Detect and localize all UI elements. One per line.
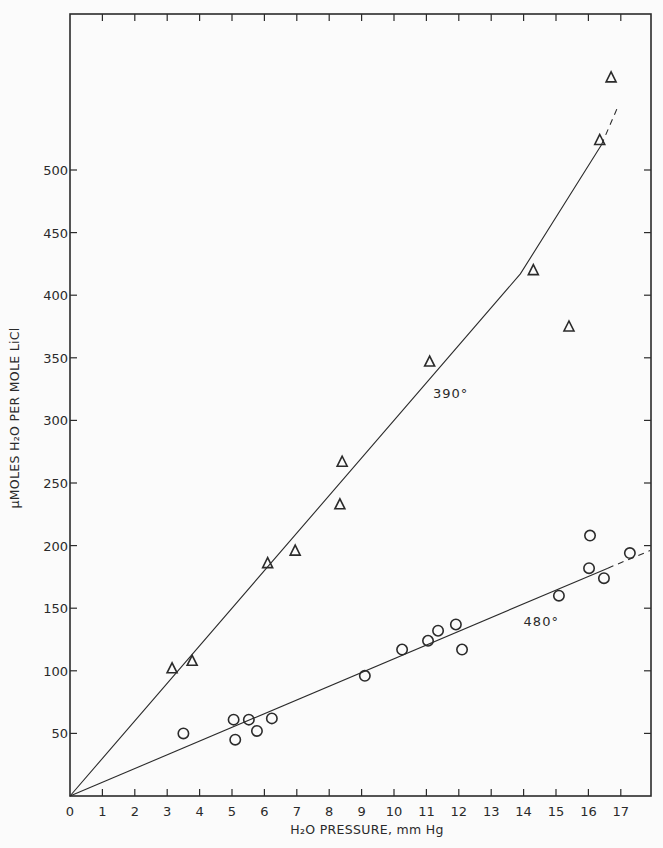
triangle-marker (425, 356, 435, 366)
y-tick-label: 350 (43, 351, 68, 366)
y-tick-label: 150 (43, 601, 68, 616)
x-tick-label: 13 (483, 804, 500, 819)
y-axis: 50100150200250300350400450500 (43, 163, 651, 741)
x-tick-label: 17 (613, 804, 630, 819)
x-tick-label: 0 (66, 804, 74, 819)
triangle-marker (337, 456, 347, 466)
triangle-marker (290, 545, 300, 555)
data-points (167, 72, 635, 745)
x-tick-label: 2 (131, 804, 139, 819)
circle-marker (244, 714, 254, 724)
circle-marker (230, 734, 240, 744)
circle-marker (554, 590, 564, 600)
y-axis-title: μMOLES H₂O PER MOLE LiCl (7, 328, 22, 509)
circle-marker (252, 726, 262, 736)
triangle-marker (167, 663, 177, 673)
fit-line-extrapolated (601, 107, 617, 145)
y-tick-label: 400 (43, 288, 68, 303)
circle-marker (360, 671, 370, 681)
circle-marker (433, 626, 443, 636)
x-tick-label: 8 (325, 804, 333, 819)
fit-line (70, 568, 608, 796)
fit-lines (70, 107, 650, 796)
y-tick-label: 100 (43, 664, 68, 679)
triangle-marker (528, 265, 538, 275)
x-tick-label: 6 (260, 804, 268, 819)
x-tick-label: 7 (293, 804, 301, 819)
circle-marker (397, 644, 407, 654)
circle-marker (585, 530, 595, 540)
x-tick-label: 16 (580, 804, 597, 819)
triangle-marker (606, 72, 616, 82)
circle-marker (625, 548, 635, 558)
y-tick-label: 50 (51, 726, 68, 741)
x-tick-label: 9 (357, 804, 365, 819)
curve-label-480: 480° (524, 614, 559, 629)
triangle-marker (335, 499, 345, 509)
circle-marker (451, 619, 461, 629)
curve-label-390: 390° (433, 386, 468, 401)
y-tick-label: 300 (43, 413, 68, 428)
x-tick-label: 12 (451, 804, 468, 819)
x-tick-label: 4 (195, 804, 203, 819)
x-tick-label: 1 (98, 804, 106, 819)
x-tick-label: 14 (515, 804, 532, 819)
x-axis-title: H₂O PRESSURE, mm Hg (290, 822, 443, 837)
y-tick-label: 200 (43, 539, 68, 554)
x-axis: 01234567891011121314151617 (66, 14, 629, 819)
x-tick-label: 5 (228, 804, 236, 819)
circle-marker (267, 713, 277, 723)
triangle-marker (564, 321, 574, 331)
circle-marker (457, 644, 467, 654)
y-tick-label: 250 (43, 476, 68, 491)
chart-canvas: 01234567891011121314151617 5010015020025… (0, 0, 663, 848)
circle-marker (178, 728, 188, 738)
circle-marker (584, 563, 594, 573)
y-tick-label: 450 (43, 226, 68, 241)
x-tick-label: 15 (548, 804, 565, 819)
circle-marker (599, 573, 609, 583)
x-tick-label: 3 (163, 804, 171, 819)
y-tick-label: 500 (43, 163, 68, 178)
x-tick-label: 10 (386, 804, 403, 819)
circle-marker (228, 714, 238, 724)
fit-line (70, 145, 601, 796)
fit-line-extrapolated (608, 551, 650, 569)
x-tick-label: 11 (418, 804, 435, 819)
triangle-marker (187, 655, 197, 665)
